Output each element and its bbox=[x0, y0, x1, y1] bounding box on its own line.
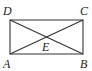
label-e: E bbox=[41, 40, 50, 54]
label-d: D bbox=[2, 4, 12, 18]
label-c: C bbox=[80, 4, 89, 18]
label-b: B bbox=[80, 57, 88, 71]
rectangle-diagram: D C E A B bbox=[0, 0, 92, 71]
label-a: A bbox=[2, 57, 11, 71]
